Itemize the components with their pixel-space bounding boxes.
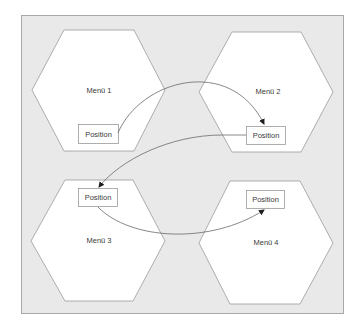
menu-label: Menü 4 [253, 238, 278, 247]
position-label: Position [252, 195, 279, 204]
menu-flow-diagram: Menü 1 Position Menü 2 Position Menü 3 P… [0, 0, 361, 332]
menu-label: Menü 2 [255, 87, 280, 96]
position-label: Position [85, 130, 112, 139]
position-label: Position [85, 193, 112, 202]
menu-label: Menü 1 [86, 86, 111, 95]
menu-label: Menü 3 [86, 236, 111, 245]
position-label: Position [253, 131, 280, 140]
